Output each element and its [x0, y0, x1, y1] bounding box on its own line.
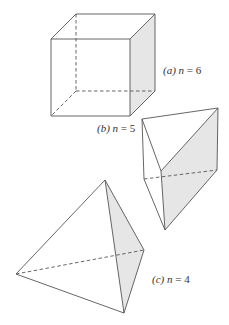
- label-c-prefix: (c): [152, 273, 164, 285]
- tetrahedron-shaded-face: [105, 180, 144, 313]
- label-c-value: 4: [184, 273, 190, 285]
- label-a-var: n: [179, 64, 185, 76]
- polyhedra-diagram: [0, 0, 229, 325]
- prism-figure: [142, 108, 218, 230]
- label-b-eq: =: [121, 122, 127, 134]
- label-a: (a) n = 6: [163, 64, 201, 76]
- label-a-prefix: (a): [163, 64, 176, 76]
- label-a-eq: =: [187, 64, 193, 76]
- label-c-eq: =: [175, 273, 181, 285]
- label-b-var: n: [113, 122, 119, 134]
- cube-figure: [51, 14, 155, 116]
- label-c-var: n: [167, 273, 173, 285]
- label-c: (c) n = 4: [152, 273, 190, 285]
- label-b: (b) n = 5: [97, 122, 135, 134]
- label-a-value: 6: [196, 64, 202, 76]
- label-b-value: 5: [130, 122, 136, 134]
- label-b-prefix: (b): [97, 122, 110, 134]
- prism-shaded-face: [161, 108, 218, 230]
- tetrahedron-figure: [16, 180, 144, 313]
- cube-shaded-face: [130, 14, 155, 116]
